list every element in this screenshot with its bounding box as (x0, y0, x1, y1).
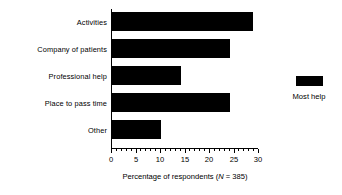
x-tick-label: 15 (173, 155, 197, 164)
x-tick-minor (180, 149, 181, 151)
legend: Most help (278, 76, 340, 101)
x-tick-minor (189, 149, 190, 151)
x-tick-minor (238, 149, 239, 151)
x-tick-minor (126, 149, 127, 151)
x-tick-minor (199, 149, 200, 151)
x-tick-label: 10 (148, 155, 172, 164)
bar-other (112, 120, 161, 139)
category-label-other: Other (0, 126, 107, 135)
x-tick-minor (243, 149, 244, 151)
category-label-activities: Activities (0, 18, 107, 27)
plot-area: 051015202530 (111, 9, 258, 148)
bar-chart-figure: Activities Company of patients Professio… (0, 0, 342, 195)
x-tick-label: 5 (124, 155, 148, 164)
x-axis-label-prefix: Percentage of respondents ( (122, 172, 218, 181)
x-axis-label-suffix: = 385) (224, 172, 248, 181)
x-tick-minor (253, 149, 254, 151)
x-tick-minor (145, 149, 146, 151)
x-tick-label: 20 (197, 155, 221, 164)
x-tick-minor (116, 149, 117, 151)
x-tick-major (160, 149, 161, 153)
x-tick-minor (248, 149, 249, 151)
x-tick-minor (194, 149, 195, 151)
bar-place-to-pass-time (112, 93, 230, 112)
x-tick-major (258, 149, 259, 153)
legend-swatch-most-help (296, 76, 323, 86)
x-tick-minor (204, 149, 205, 151)
x-tick-minor (140, 149, 141, 151)
x-tick-minor (150, 149, 151, 151)
x-tick-minor (214, 149, 215, 151)
x-tick-minor (155, 149, 156, 151)
legend-label-most-help: Most help (278, 92, 340, 101)
x-tick-minor (131, 149, 132, 151)
category-label-place-to-pass-time: Place to pass time (0, 99, 107, 108)
category-label-professional-help: Professional help (0, 72, 107, 81)
x-tick-minor (170, 149, 171, 151)
x-tick-label: 25 (222, 155, 246, 164)
x-tick-minor (165, 149, 166, 151)
x-tick-major (136, 149, 137, 153)
bar-professional-help (112, 66, 181, 85)
x-axis-label: Percentage of respondents (N = 385) (0, 172, 342, 182)
x-tick-major (185, 149, 186, 153)
category-label-company-of-patients: Company of patients (0, 45, 107, 54)
x-tick-minor (219, 149, 220, 151)
x-tick-minor (121, 149, 122, 151)
x-tick-major (111, 149, 112, 153)
x-tick-minor (224, 149, 225, 151)
x-tick-label: 30 (246, 155, 270, 164)
x-tick-label: 0 (99, 155, 123, 164)
bar-activities (112, 12, 253, 31)
bar-company-of-patients (112, 39, 230, 58)
x-tick-minor (229, 149, 230, 151)
x-tick-major (209, 149, 210, 153)
x-tick-minor (175, 149, 176, 151)
x-tick-major (234, 149, 235, 153)
